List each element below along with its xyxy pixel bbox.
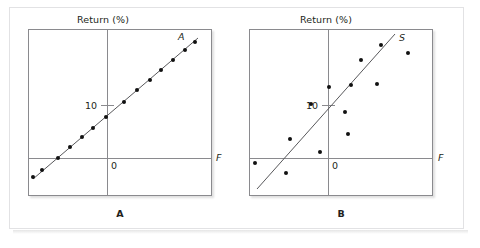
data-point [349,83,353,87]
data-point [379,43,383,47]
data-point [253,161,257,165]
panel-b-axis-title: Return (%) [300,14,352,25]
data-point [375,82,379,86]
figure-container: Return (%) 10 0 F A [0,0,480,248]
panel-b-x-axis-label: F [438,152,443,163]
data-point [343,110,347,114]
panel-b: Return (%) 10 0 F S B [0,0,480,248]
data-point [406,51,410,55]
data-point [327,85,331,89]
data-point [288,137,292,141]
data-point [346,132,350,136]
data-point [359,58,363,62]
data-point [284,171,288,175]
data-point [318,150,322,154]
data-point [309,102,313,106]
panel-b-caption: B [321,208,361,219]
